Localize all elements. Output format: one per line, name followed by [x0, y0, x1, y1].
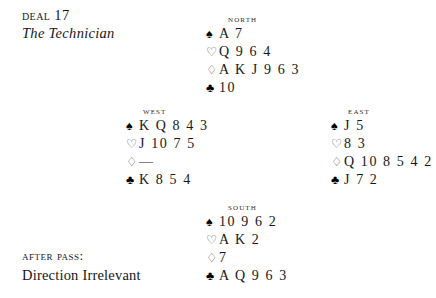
south-diamonds-cards: 7 — [219, 250, 228, 265]
north-diamonds-row: ♢A K J 9 6 3 — [206, 61, 300, 79]
heart-icon: ♡ — [126, 135, 139, 153]
west-clubs-cards: K 8 5 4 — [139, 172, 192, 187]
deal-title-text: Deal 17 — [22, 7, 70, 23]
diamond-icon: ♢ — [331, 153, 344, 171]
spade-icon: ♠ — [206, 25, 219, 43]
diamond-icon: ♢ — [126, 153, 139, 171]
hand-east: East ♠J 5 ♡8 3 ♢Q 10 8 5 4 2 ♣J 7 2 — [331, 104, 433, 189]
deal-subtitle: The Technician — [22, 25, 115, 42]
heart-icon: ♡ — [206, 231, 219, 249]
spade-icon: ♠ — [206, 213, 219, 231]
hand-west: West ♠K Q 8 4 3 ♡J 10 7 5 ♢— ♣K 8 5 4 — [126, 104, 209, 189]
south-clubs-cards: A Q 9 6 3 — [219, 268, 288, 283]
north-spades-cards: A 7 — [219, 26, 244, 41]
east-hearts-cards: 8 3 — [344, 136, 366, 151]
diamond-icon: ♢ — [206, 61, 219, 79]
spade-icon: ♠ — [331, 117, 344, 135]
north-diamonds-cards: A K J 9 6 3 — [219, 62, 300, 77]
heart-icon: ♡ — [331, 135, 344, 153]
page-title: Deal 17 — [22, 7, 70, 24]
direction-note: Direction Irrelevant — [22, 267, 141, 284]
hand-label-east: East — [348, 104, 433, 117]
hand-north: North ♠A 7 ♡Q 9 6 4 ♢A K J 9 6 3 ♣10 — [206, 12, 300, 97]
after-pass-label: After Pass: — [22, 248, 84, 264]
east-spades-cards: J 5 — [344, 118, 365, 133]
south-clubs-row: ♣A Q 9 6 3 — [206, 267, 288, 285]
hand-label-west: West — [143, 104, 209, 117]
south-hearts-row: ♡A K 2 — [206, 231, 288, 249]
west-clubs-row: ♣K 8 5 4 — [126, 171, 209, 189]
west-spades-row: ♠K Q 8 4 3 — [126, 117, 209, 135]
east-spades-row: ♠J 5 — [331, 117, 433, 135]
west-diamonds-row: ♢— — [126, 153, 209, 171]
club-icon: ♣ — [126, 171, 139, 189]
hand-south: South ♠10 9 6 2 ♡A K 2 ♢7 ♣A Q 9 6 3 — [206, 200, 288, 285]
north-hearts-row: ♡Q 9 6 4 — [206, 43, 300, 61]
north-spades-row: ♠A 7 — [206, 25, 300, 43]
club-icon: ♣ — [331, 171, 344, 189]
hand-label-north: North — [228, 12, 300, 25]
east-clubs-row: ♣J 7 2 — [331, 171, 433, 189]
heart-icon: ♡ — [206, 43, 219, 61]
south-diamonds-row: ♢7 — [206, 249, 288, 267]
diamond-icon: ♢ — [206, 249, 219, 267]
south-hearts-cards: A K 2 — [219, 232, 260, 247]
south-spades-cards: 10 9 6 2 — [219, 214, 277, 229]
east-clubs-cards: J 7 2 — [344, 172, 378, 187]
west-hearts-row: ♡J 10 7 5 — [126, 135, 209, 153]
west-diamonds-cards: — — [139, 154, 153, 169]
north-clubs-cards: 10 — [219, 80, 236, 95]
club-icon: ♣ — [206, 79, 219, 97]
spade-icon: ♠ — [126, 117, 139, 135]
club-icon: ♣ — [206, 267, 219, 285]
east-diamonds-cards: Q 10 8 5 4 2 — [344, 154, 433, 169]
hand-label-south: South — [228, 200, 288, 213]
south-spades-row: ♠10 9 6 2 — [206, 213, 288, 231]
west-hearts-cards: J 10 7 5 — [139, 136, 196, 151]
east-hearts-row: ♡8 3 — [331, 135, 433, 153]
east-diamonds-row: ♢Q 10 8 5 4 2 — [331, 153, 433, 171]
north-clubs-row: ♣10 — [206, 79, 300, 97]
west-spades-cards: K Q 8 4 3 — [139, 118, 209, 133]
north-hearts-cards: Q 9 6 4 — [219, 44, 272, 59]
